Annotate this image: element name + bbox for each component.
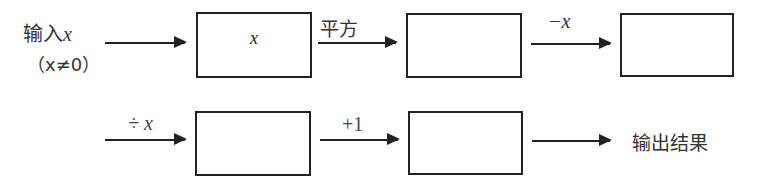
arrow-box2-to-box3: [531, 43, 610, 45]
box-3: [620, 13, 734, 77]
op-label-square: 平方: [320, 14, 358, 41]
input-condition: （x≠0）: [27, 50, 100, 76]
arrow-box5-to-output: [532, 140, 610, 142]
input-label: 输入x: [23, 18, 72, 47]
box-1: x: [196, 12, 312, 78]
op-label-minus-x: −x: [548, 10, 570, 33]
box-1-content: x: [250, 28, 258, 49]
box-2: [406, 13, 522, 78]
op-square-text: 平方: [320, 18, 358, 40]
output-text: 输出结果: [632, 132, 708, 154]
arrow-box1-to-box2: [318, 42, 396, 44]
arrow-box4-to-box5: [320, 139, 398, 141]
output-label: 输出结果: [632, 128, 708, 155]
box-4: [195, 111, 311, 176]
arrow-box3-to-box4: [105, 139, 185, 141]
op-divide-x-text: ÷ x: [128, 112, 153, 134]
op-label-divide-x: ÷ x: [128, 112, 153, 135]
input-condition-text: （x≠0）: [27, 54, 100, 75]
box-5: [408, 111, 523, 175]
op-label-plus-one: +1: [342, 113, 363, 136]
op-plus-one-text: +1: [342, 113, 363, 135]
arrow-input-to-box1: [105, 42, 185, 44]
input-var: x: [63, 23, 72, 45]
flowchart-diagram: 输入x （x≠0） x 平方 −x ÷ x +1 输出结果: [0, 0, 765, 185]
input-text: 输入: [23, 22, 63, 46]
op-minus-x-text: −x: [548, 10, 570, 32]
